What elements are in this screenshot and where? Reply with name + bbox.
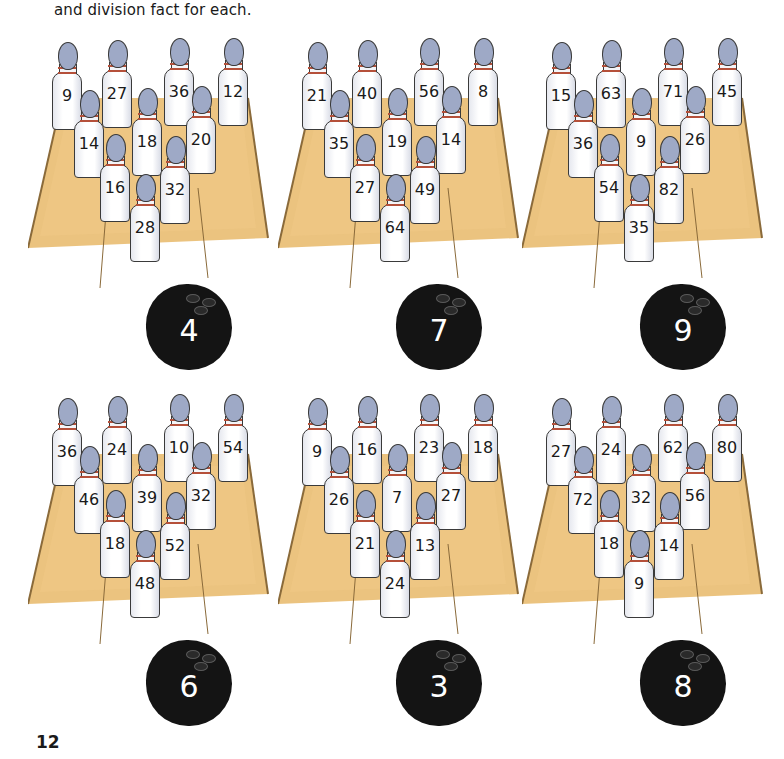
pin-number: 7 — [378, 488, 416, 507]
pin-stripe — [224, 424, 242, 426]
pin-head — [224, 394, 244, 422]
pin-head — [664, 38, 684, 66]
finger-hole-icon — [436, 650, 450, 659]
pin-stripe — [166, 166, 184, 168]
pin-number: 9 — [622, 132, 660, 151]
pin-head — [136, 530, 156, 558]
pin-head — [420, 38, 440, 66]
finger-hole-icon — [680, 294, 694, 303]
pin-number: 21 — [346, 534, 384, 553]
pin-head — [106, 490, 126, 518]
pin-number: 49 — [406, 180, 444, 199]
pin-head — [416, 492, 436, 520]
pin-number: 32 — [622, 488, 660, 507]
pin-head — [386, 530, 406, 558]
pin-head — [552, 398, 572, 426]
pin-head — [358, 396, 378, 424]
pin-head — [138, 88, 158, 116]
pin-head — [58, 42, 78, 70]
pin-number: 39 — [128, 488, 166, 507]
pin-stripe — [632, 474, 650, 476]
pin-head — [170, 394, 190, 422]
pin-head — [358, 40, 378, 68]
pin-head — [224, 38, 244, 66]
finger-hole-icon — [186, 650, 200, 659]
pin-head — [388, 88, 408, 116]
pin-head — [718, 38, 738, 66]
pin-stripe — [170, 424, 188, 426]
pin-stripe — [388, 474, 406, 476]
pin-number: 18 — [464, 438, 502, 457]
bowling-game-6: 27246280723256181498 — [522, 394, 772, 744]
pin-stripe — [386, 560, 404, 562]
pin-stripe — [474, 424, 492, 426]
pin-stripe — [170, 68, 188, 70]
bowling-game-4: 362410544639321852486 — [28, 394, 278, 744]
pin-stripe — [136, 204, 154, 206]
pin-head — [632, 88, 652, 116]
pin-head — [80, 90, 100, 118]
pin-head — [664, 394, 684, 422]
pin-head — [602, 396, 622, 424]
pin-head — [386, 174, 406, 202]
finger-hole-icon — [186, 294, 200, 303]
pin-stripe — [660, 522, 678, 524]
bowling-ball: 4 — [146, 284, 232, 370]
pin-stripe — [420, 68, 438, 70]
pin-stripe — [718, 68, 736, 70]
pin-stripe — [386, 204, 404, 206]
pin-stripe — [106, 164, 124, 166]
ball-divisor: 7 — [429, 313, 448, 348]
pin-stripe — [632, 118, 650, 120]
pin-head — [108, 396, 128, 424]
pin-head — [58, 398, 78, 426]
pin-stripe — [356, 164, 374, 166]
pin-head — [600, 490, 620, 518]
pin-stripe — [660, 166, 678, 168]
pin-number: 18 — [590, 534, 628, 553]
ball-divisor: 8 — [673, 669, 692, 704]
pin-head — [80, 446, 100, 474]
pin-stripe — [602, 426, 620, 428]
pin-head — [192, 442, 212, 470]
pin-number: 45 — [708, 82, 746, 101]
pin-number: 26 — [320, 490, 358, 509]
pin-number: 8 — [464, 82, 502, 101]
pin-head — [108, 40, 128, 68]
pin-head — [388, 444, 408, 472]
pin-number: 56 — [676, 486, 714, 505]
pin-head — [138, 444, 158, 472]
pin-head — [308, 42, 328, 70]
pin-number: 16 — [348, 440, 386, 459]
pin-head — [718, 394, 738, 422]
finger-hole-icon — [688, 306, 702, 315]
pin-stripe — [108, 426, 126, 428]
instruction-text: and division fact for each. — [54, 1, 252, 19]
pin-number: 26 — [676, 130, 714, 149]
pin-number: 27 — [98, 84, 136, 103]
ball-divisor: 4 — [179, 313, 198, 348]
pin-stripe — [574, 476, 592, 478]
pin-head — [170, 38, 190, 66]
ball-divisor: 6 — [179, 669, 198, 704]
pin-stripe — [420, 424, 438, 426]
pin-stripe — [664, 424, 682, 426]
pin-number: 24 — [98, 440, 136, 459]
pin-number: 54 — [590, 178, 628, 197]
pin-number: 63 — [592, 84, 630, 103]
pin-stripe — [630, 560, 648, 562]
bowling-ball: 9 — [640, 284, 726, 370]
pin-head — [442, 86, 462, 114]
finger-hole-icon — [444, 662, 458, 671]
bowling-ball: 3 — [396, 640, 482, 726]
pin-stripe — [442, 116, 460, 118]
pin-number: 27 — [432, 486, 470, 505]
pin-number: 12 — [214, 82, 252, 101]
pin-head — [166, 492, 186, 520]
pin-number: 40 — [348, 84, 386, 103]
pin-head — [308, 398, 328, 426]
pin-head — [632, 444, 652, 472]
pin-number: 28 — [126, 218, 164, 237]
bowling-game-5: 9162318267272113243 — [278, 394, 528, 744]
pin-number: 48 — [126, 574, 164, 593]
